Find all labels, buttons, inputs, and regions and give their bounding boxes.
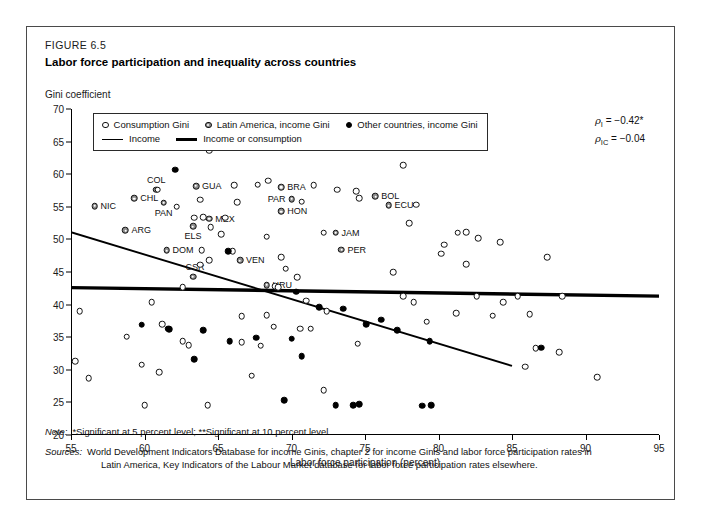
data-point[interactable] — [174, 204, 181, 211]
data-point[interactable] — [363, 321, 370, 328]
data-point-nic[interactable] — [91, 203, 98, 210]
data-point[interactable] — [340, 305, 347, 312]
data-point[interactable] — [138, 322, 145, 329]
data-point[interactable] — [275, 284, 282, 291]
data-point[interactable] — [323, 308, 330, 315]
data-point[interactable] — [185, 342, 192, 349]
data-point[interactable] — [426, 338, 433, 345]
data-point[interactable] — [149, 299, 156, 306]
data-point[interactable] — [199, 247, 206, 254]
data-point[interactable] — [231, 182, 238, 189]
legend-item-other-countries[interactable]: Other countries, income Gini — [346, 118, 478, 132]
data-point[interactable] — [156, 369, 163, 376]
data-point[interactable] — [222, 215, 229, 222]
data-point[interactable] — [497, 239, 504, 246]
data-point[interactable] — [166, 326, 173, 333]
data-point[interactable] — [124, 333, 131, 340]
data-point[interactable] — [179, 284, 186, 291]
data-point[interactable] — [288, 335, 295, 342]
data-point[interactable] — [282, 265, 289, 272]
data-point[interactable] — [438, 250, 445, 257]
data-point[interactable] — [413, 202, 420, 209]
data-point-hon[interactable] — [278, 208, 285, 215]
data-point-bra[interactable] — [278, 184, 285, 191]
data-point[interactable] — [356, 401, 363, 408]
data-point[interactable] — [463, 229, 470, 236]
data-point[interactable] — [307, 325, 314, 332]
data-point[interactable] — [191, 356, 198, 363]
data-point[interactable] — [394, 327, 401, 334]
data-point[interactable] — [298, 353, 305, 360]
data-point[interactable] — [463, 261, 470, 268]
data-point[interactable] — [473, 293, 480, 300]
data-point[interactable] — [594, 374, 601, 381]
data-point[interactable] — [254, 181, 261, 188]
data-point[interactable] — [141, 402, 148, 409]
data-point-per[interactable] — [338, 247, 345, 254]
data-point[interactable] — [191, 215, 198, 222]
data-point[interactable] — [238, 339, 245, 346]
data-point[interactable] — [303, 297, 310, 304]
data-point[interactable] — [428, 402, 435, 409]
data-point[interactable] — [423, 318, 430, 325]
data-point[interactable] — [206, 257, 213, 264]
data-point[interactable] — [197, 262, 204, 269]
data-point-uru[interactable] — [263, 282, 270, 289]
data-point[interactable] — [154, 187, 161, 194]
data-point[interactable] — [475, 235, 482, 242]
data-point[interactable] — [453, 310, 460, 317]
data-point[interactable] — [263, 312, 270, 319]
data-point[interactable] — [249, 372, 256, 379]
data-point[interactable] — [271, 323, 278, 330]
data-point-gua[interactable] — [193, 183, 200, 190]
data-point[interactable] — [400, 162, 407, 169]
legend-item-latin-america[interactable]: Latin America, income Gini — [205, 118, 330, 132]
data-point[interactable] — [253, 335, 260, 342]
data-point[interactable] — [332, 402, 339, 409]
data-point[interactable] — [310, 182, 317, 189]
data-point[interactable] — [441, 241, 448, 248]
data-point[interactable] — [515, 293, 522, 300]
data-point[interactable] — [400, 293, 407, 300]
data-point[interactable] — [200, 327, 207, 334]
data-point[interactable] — [406, 220, 413, 227]
data-point[interactable] — [454, 230, 461, 237]
data-point[interactable] — [281, 397, 288, 404]
data-point-ven[interactable] — [237, 257, 244, 264]
data-point[interactable] — [257, 342, 264, 349]
data-point[interactable] — [278, 254, 285, 261]
data-point[interactable] — [419, 402, 426, 409]
data-point-mex[interactable] — [206, 215, 213, 222]
data-point[interactable] — [500, 299, 507, 306]
data-point[interactable] — [559, 293, 566, 300]
data-point-arg[interactable] — [122, 227, 129, 234]
legend-item-income-line[interactable]: Income — [102, 132, 160, 146]
data-point[interactable] — [522, 363, 529, 370]
data-point[interactable] — [200, 214, 207, 221]
data-point[interactable] — [263, 233, 270, 240]
data-point[interactable] — [138, 361, 145, 368]
data-point[interactable] — [218, 231, 225, 238]
data-point-jam[interactable] — [332, 230, 339, 237]
data-point[interactable] — [226, 338, 233, 345]
data-point-dom[interactable] — [163, 247, 170, 254]
data-point[interactable] — [321, 387, 328, 394]
data-point[interactable] — [334, 187, 341, 194]
data-point-par[interactable] — [288, 196, 295, 203]
legend-item-consumption[interactable]: Consumption Gini — [102, 118, 189, 132]
data-point[interactable] — [77, 308, 84, 315]
data-point-chl[interactable] — [131, 195, 138, 202]
data-point-bol[interactable] — [372, 193, 379, 200]
data-point-csr[interactable] — [190, 273, 197, 280]
data-point[interactable] — [298, 198, 305, 205]
data-point[interactable] — [197, 196, 204, 203]
data-point[interactable] — [410, 299, 417, 306]
data-point-pan[interactable] — [160, 200, 167, 207]
data-point[interactable] — [297, 325, 304, 332]
data-point[interactable] — [225, 248, 232, 255]
data-point[interactable] — [390, 269, 397, 276]
data-point[interactable] — [356, 195, 363, 202]
data-point[interactable] — [526, 311, 533, 318]
data-point[interactable] — [354, 340, 361, 347]
data-point[interactable] — [294, 274, 301, 281]
